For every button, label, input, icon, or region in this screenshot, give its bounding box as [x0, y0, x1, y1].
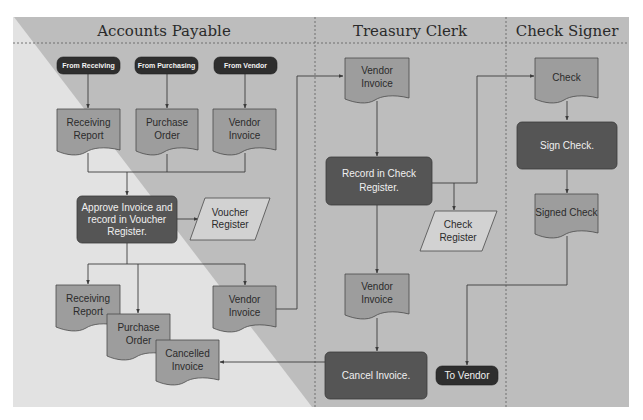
svg-text:Register: Register: [439, 232, 477, 243]
process-approve-invoice: Approve Invoice and record in Voucher Re…: [77, 196, 177, 243]
svg-text:Purchase: Purchase: [146, 117, 189, 128]
svg-text:Order: Order: [126, 335, 152, 346]
svg-text:Receiving: Receiving: [66, 293, 110, 304]
svg-text:Vendor: Vendor: [361, 281, 393, 292]
document-receiving-report: Receiving Report: [57, 109, 120, 155]
source-label: From Vendor: [224, 62, 267, 69]
svg-text:Invoice: Invoice: [229, 130, 261, 141]
svg-text:Report: Report: [73, 306, 103, 317]
svg-text:Sign Check.: Sign Check.: [540, 140, 594, 151]
svg-text:To Vendor: To Vendor: [444, 370, 490, 381]
document-vendor-invoice: Vendor Invoice: [213, 109, 276, 155]
document-vendor-invoice-returned: Vendor Invoice: [345, 274, 409, 319]
lane-title-accounts-payable: Accounts Payable: [96, 22, 231, 40]
svg-text:Cancelled: Cancelled: [165, 348, 209, 359]
svg-text:Register: Register: [211, 219, 249, 230]
svg-text:Signed Check: Signed Check: [535, 207, 598, 218]
svg-text:Record in Check: Record in Check: [342, 168, 417, 179]
document-vendor-invoice-treasury: Vendor Invoice: [345, 58, 409, 103]
lane-title-treasury-clerk: Treasury Clerk: [353, 22, 468, 40]
process-record-check-register: Record in Check Register.: [326, 157, 432, 205]
source-from-receiving: From Receiving: [57, 57, 120, 74]
svg-text:Check: Check: [552, 72, 581, 83]
svg-text:record in Voucher: record in Voucher: [88, 214, 167, 225]
svg-text:Invoice: Invoice: [361, 78, 393, 89]
svg-text:Purchase: Purchase: [117, 322, 160, 333]
svg-text:Register.: Register.: [359, 182, 398, 193]
lane-title-check-signer: Check Signer: [516, 22, 619, 40]
source-from-purchasing: From Purchasing: [135, 57, 198, 74]
source-from-vendor: From Vendor: [214, 57, 277, 74]
svg-text:Invoice: Invoice: [361, 294, 393, 305]
document-signed-check: Signed Check: [535, 194, 599, 238]
svg-text:Cancel Invoice.: Cancel Invoice.: [342, 370, 410, 381]
process-cancel-invoice: Cancel Invoice.: [325, 352, 427, 399]
svg-text:Invoice: Invoice: [229, 307, 261, 318]
process-sign-check: Sign Check.: [517, 122, 617, 169]
flowchart-diagram: Accounts Payable Treasury Clerk Check Si…: [0, 0, 643, 420]
svg-text:Invoice: Invoice: [172, 361, 204, 372]
svg-text:Vendor: Vendor: [229, 294, 261, 305]
svg-text:Order: Order: [154, 130, 180, 141]
svg-text:Check: Check: [444, 219, 473, 230]
document-purchase-order: Purchase Order: [136, 109, 198, 155]
svg-text:Register.: Register.: [107, 226, 146, 237]
terminal-to-vendor: To Vendor: [436, 366, 498, 385]
svg-text:Voucher: Voucher: [212, 207, 249, 218]
svg-text:Approve Invoice and: Approve Invoice and: [81, 202, 172, 213]
svg-text:Vendor: Vendor: [229, 117, 261, 128]
svg-text:Report: Report: [73, 130, 103, 141]
source-label: From Purchasing: [138, 62, 196, 70]
document-vendor-invoice-outgoing: Vendor Invoice: [213, 286, 276, 332]
document-check: Check: [535, 58, 598, 103]
filed-cancelled-invoice: Cancelled Invoice: [156, 340, 219, 385]
svg-text:Vendor: Vendor: [361, 65, 393, 76]
source-label: From Receiving: [62, 62, 115, 70]
svg-text:Receiving: Receiving: [67, 117, 111, 128]
